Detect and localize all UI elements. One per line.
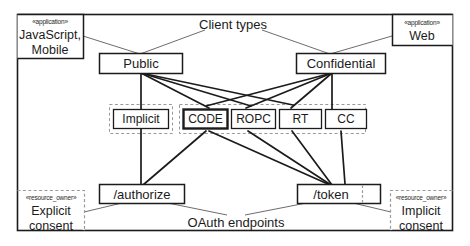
- corner-box-explicit-consent: [18, 191, 85, 231]
- box-token[interactable]: [298, 185, 381, 204]
- box-rt[interactable]: [280, 110, 322, 129]
- box-authorize[interactable]: [100, 185, 185, 204]
- edge-clienttypes-confidential: [262, 30, 330, 54]
- edge-js-public: [83, 36, 140, 54]
- diagram-canvas: Client types OAuth endpoints «applicatio…: [0, 0, 470, 246]
- box-public[interactable]: [100, 54, 183, 74]
- edge-confidential-ropc: [246, 73, 332, 108]
- box-cc[interactable]: [326, 110, 367, 129]
- box-ropc[interactable]: [232, 110, 276, 129]
- edge-clienttypes-public: [140, 30, 205, 54]
- box-code[interactable]: [184, 110, 228, 129]
- edge-ropc-token: [248, 131, 331, 185]
- edge-cc-token: [341, 131, 345, 184]
- edge-code-authorize: [143, 131, 206, 185]
- corner-box-implicit-consent: [391, 191, 453, 231]
- diagram-graphics: [0, 0, 470, 246]
- box-implicit[interactable]: [114, 110, 169, 129]
- box-confidential[interactable]: [297, 54, 386, 74]
- edge-web-confidential: [330, 36, 392, 54]
- corner-box-web: [393, 15, 453, 46]
- corner-box-js-mobile: [18, 15, 84, 59]
